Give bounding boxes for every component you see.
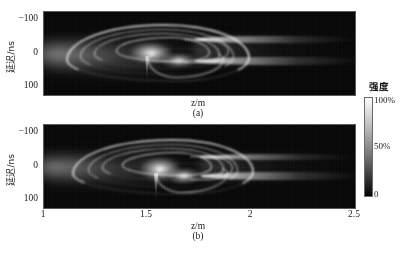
panel-b-xtick-1: 1.5 xyxy=(126,210,166,220)
colorbar-title: 强度 xyxy=(369,82,389,92)
figure-root: −100 0 100 延迟/ns z/m (a) −100 0 xyxy=(0,0,414,260)
panel-b-canvas xyxy=(44,125,355,208)
panel-b-heatmap xyxy=(43,124,356,209)
panel-b-letter: (b) xyxy=(158,232,238,242)
panel-a-heatmap xyxy=(43,11,356,96)
panel-a-canvas xyxy=(44,12,355,95)
panel-b-ylabel: 延迟/ns xyxy=(7,146,16,186)
colorbar-tick-50: 50% xyxy=(374,142,391,151)
panel-b-xtick-3: 2.5 xyxy=(334,210,374,220)
panel-a-ylabel: 延迟/ns xyxy=(7,33,16,73)
panel-a-ytick-0: −100 xyxy=(0,14,38,24)
colorbar-gradient xyxy=(364,97,373,197)
panel-b-xtick-2: 2 xyxy=(230,210,270,220)
panel-a-ytick-2: 100 xyxy=(0,81,38,91)
colorbar-tick-100: 100% xyxy=(374,96,395,105)
colorbar-group: 强度 100% 50% 0 xyxy=(360,80,414,200)
panel-b-ytick-2: 100 xyxy=(0,194,38,204)
panel-a-letter: (a) xyxy=(158,109,238,119)
panel-b-ytick-0: −100 xyxy=(0,127,38,137)
panel-b-noise xyxy=(44,125,355,208)
panel-a-noise xyxy=(44,12,355,95)
colorbar-tick-0: 0 xyxy=(374,190,379,199)
panel-b-xtick-0: 1 xyxy=(23,210,63,220)
